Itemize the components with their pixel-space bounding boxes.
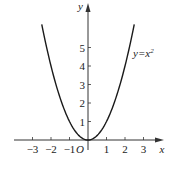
function-label: y=x2 (132, 47, 154, 59)
y-tick-label: 5 (80, 42, 86, 54)
function-label-base: y=x (132, 47, 150, 59)
origin-label: O (76, 143, 84, 155)
axes (14, 3, 164, 150)
x-tick-label: −3 (27, 143, 39, 155)
labels: −3−2−112312345xyOy=x2 (27, 0, 165, 155)
x-axis-label: x (159, 143, 165, 155)
y-tick-label: 2 (80, 97, 86, 109)
x-tick-label: 3 (141, 143, 147, 155)
y-axis-label: y (77, 0, 83, 12)
x-axis-arrow-icon (155, 138, 164, 143)
y-tick-label: 4 (80, 60, 86, 72)
function-label-exponent: 2 (150, 47, 154, 55)
parabola-chart: −3−2−112312345xyOy=x2 (0, 0, 174, 169)
chart-canvas: −3−2−112312345xyOy=x2 (0, 0, 174, 169)
y-tick-label: 3 (80, 79, 86, 91)
y-tick-label: 1 (80, 116, 86, 128)
x-tick-label: 2 (122, 143, 128, 155)
x-tick-label: 1 (104, 143, 110, 155)
y-axis-arrow-icon (86, 3, 91, 12)
x-tick-label: −2 (45, 143, 57, 155)
x-tick-label: −1 (64, 143, 76, 155)
